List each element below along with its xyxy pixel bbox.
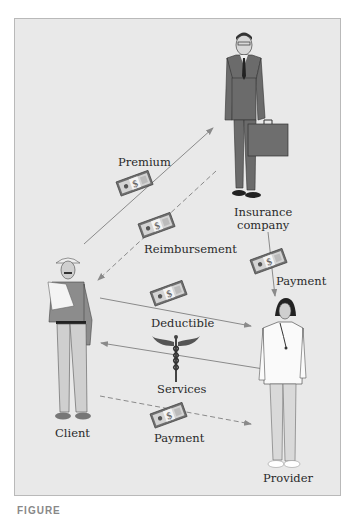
label-client: Client xyxy=(55,427,90,440)
label-client-payment: Payment xyxy=(154,432,204,445)
money-icon xyxy=(150,280,187,306)
label-provider: Provider xyxy=(263,472,313,485)
money-icon xyxy=(250,248,287,274)
label-insurer-payment: Payment xyxy=(276,275,326,288)
label-reimbursement: Reimbursement xyxy=(144,243,237,256)
money-icon xyxy=(116,170,153,196)
client-figure xyxy=(48,258,92,420)
label-deductible: Deductible xyxy=(151,317,214,330)
figure-caption: FIGURE xyxy=(17,505,61,516)
label-insurance-company: Insurance company xyxy=(234,206,292,232)
caduceus-icon xyxy=(152,335,200,382)
provider-figure xyxy=(259,298,306,468)
label-premium: Premium xyxy=(118,156,171,169)
label-insurance-line2: company xyxy=(234,219,292,232)
money-icon xyxy=(138,212,175,238)
label-services: Services xyxy=(157,383,207,396)
arrow-services xyxy=(101,343,270,370)
insurance-company-figure xyxy=(225,33,288,199)
